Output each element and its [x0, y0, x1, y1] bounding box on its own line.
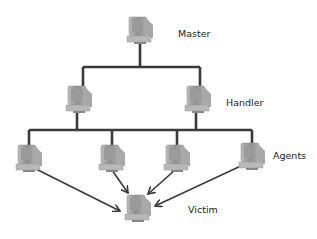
handler-computer-icon — [185, 86, 211, 113]
agent-computer-icon — [16, 145, 42, 172]
connection-lines — [29, 44, 252, 146]
agent-computer-icon — [99, 145, 125, 172]
master-label: Master — [178, 28, 210, 39]
agents-label: Agents — [273, 150, 306, 161]
diagram-canvas — [0, 0, 317, 239]
handler-computer-icon — [66, 86, 92, 113]
victim-label: Victim — [188, 204, 218, 215]
master-computer-icon — [127, 17, 153, 44]
agent-computer-icon — [164, 145, 190, 172]
victim-computer-icon — [125, 195, 151, 222]
handler-label: Handler — [226, 97, 263, 108]
agent-computer-icon — [239, 143, 265, 170]
